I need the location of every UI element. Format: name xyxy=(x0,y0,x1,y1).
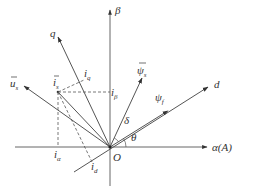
beta-axis-label: β xyxy=(114,4,121,16)
u-s-vector: us xyxy=(10,77,110,147)
i-q-projection xyxy=(58,80,84,92)
origin-label: O xyxy=(113,151,121,163)
i-s-label: is xyxy=(53,76,59,91)
delta-label: δ xyxy=(124,114,130,126)
i-q-label: iq xyxy=(84,67,91,82)
delta-arc xyxy=(114,138,118,142)
theta-label: θ xyxy=(131,131,137,143)
psi-s-vector: ψs xyxy=(110,63,147,147)
alpha-axis-label: α(A) xyxy=(212,141,232,154)
d-axis-label: d xyxy=(214,78,220,90)
i-beta-label: iβ xyxy=(111,86,118,101)
i-s-line xyxy=(58,92,110,147)
i-d-label: id xyxy=(91,160,98,175)
i-alpha-label: iα xyxy=(54,148,61,163)
q-axis: q xyxy=(50,27,110,147)
vector-diagram: α(A) β d ψf q ψs us is xyxy=(0,0,257,191)
i-d-projection xyxy=(58,92,92,162)
u-s-label: us xyxy=(10,77,19,92)
projection-lines xyxy=(58,80,110,162)
origin-point xyxy=(108,145,111,148)
q-axis-label: q xyxy=(50,27,56,39)
u-s-arrow xyxy=(24,86,110,147)
psi-s-label: ψs xyxy=(137,64,147,79)
alpha-axis: α(A) xyxy=(15,141,232,154)
psi-f-label: ψf xyxy=(155,91,165,106)
